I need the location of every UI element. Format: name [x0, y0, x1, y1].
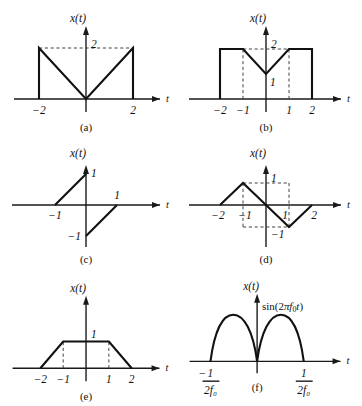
x-tick-neg-denominator: 2f₀: [204, 384, 217, 397]
y-axis-label: x(t): [69, 282, 86, 295]
panel-caption-b: (b): [260, 121, 273, 134]
x-tick-pos-denominator: 2f₀: [297, 384, 310, 397]
x-tick-label-neg2: −2: [34, 373, 48, 385]
x-axis-label: t: [165, 362, 169, 373]
y-axis-arrow-icon: [263, 165, 269, 174]
x-tick-neg-sign: −: [199, 367, 207, 379]
expression-close: ): [299, 300, 303, 313]
panel-b-plot: x(t) t −2 −1 1 2 2 1 (b): [181, 0, 362, 135]
y-axis-label: x(t): [249, 12, 266, 25]
panel-e-plot: x(t) t −2 −1 1 2 1 (e): [0, 270, 181, 405]
panel-a-plot: x(t) t −2 2 2 (a): [0, 0, 181, 135]
x-tick-label-neg2: −2: [213, 104, 227, 116]
x-tick-label-neg2: −2: [32, 104, 46, 116]
x-axis-arrow-icon: [333, 202, 341, 208]
y-tick-label-1: 1: [91, 328, 97, 340]
waveform-f-left-hump: [210, 315, 257, 362]
x-tick-neg-numerator: 1: [208, 367, 214, 379]
panel-d: x(t) t −2 −1 1 2 1 −1 (d): [181, 135, 362, 270]
x-axis-label: t: [346, 355, 350, 366]
y-axis-label: x(t): [69, 147, 86, 160]
x-tick-label-1: 1: [286, 104, 292, 116]
panel-c: x(t) t −1 1 1 −1 (c): [0, 135, 181, 270]
x-tick-label-2: 2: [309, 104, 315, 116]
y-axis-label: x(t): [249, 147, 266, 160]
x-axis-arrow-icon: [333, 96, 341, 102]
panel-d-plot: x(t) t −2 −1 1 2 1 −1 (d): [181, 135, 362, 270]
waveform-c-left: [55, 174, 86, 205]
x-tick-label-1: 1: [282, 209, 288, 221]
waveform-f-right-hump: [257, 315, 304, 362]
waveform-c-right: [86, 205, 117, 236]
panel-f-plot: x(t) t sin(2πf0t) − 1 2f₀ 1 2f₀ (f): [181, 270, 362, 405]
panel-a: x(t) t −2 2 2 (a): [0, 0, 181, 135]
y-axis-label: x(t): [69, 12, 86, 25]
y-tick-label-2: 2: [91, 38, 97, 50]
x-tick-label-neg1: −1: [238, 209, 252, 221]
x-tick-label-neg1: −1: [56, 373, 69, 385]
panel-e: x(t) t −2 −1 1 2 1 (e): [0, 270, 181, 406]
x-tick-label-2: 2: [311, 209, 317, 221]
panel-caption-a: (a): [80, 121, 93, 134]
x-tick-pos-numerator: 1: [301, 367, 307, 379]
y-tick-label-2: 2: [271, 38, 277, 50]
x-axis-arrow-icon: [333, 358, 341, 364]
y-axis-arrow-icon: [83, 26, 89, 35]
signal-waveform-figure: x(t) t −2 2 2 (a) x(t) t −2 −1 1 2: [0, 0, 362, 406]
panel-f: x(t) t sin(2πf0t) − 1 2f₀ 1 2f₀ (f): [181, 270, 362, 406]
x-tick-label-neg1: −1: [48, 209, 62, 221]
x-axis-label: t: [166, 199, 170, 210]
x-tick-label-1: 1: [106, 373, 112, 385]
y-axis-label: x(t): [242, 280, 259, 293]
y-axis-arrow-icon: [254, 294, 260, 303]
x-axis-arrow-icon: [152, 365, 160, 371]
y-tick-label-neg1: −1: [271, 228, 285, 240]
panel-b: x(t) t −2 −1 1 2 2 1 (b): [181, 0, 362, 135]
x-tick-label-pos-half-over-f0: 1 2f₀: [296, 367, 313, 397]
y-tick-label-1: 1: [270, 76, 276, 88]
y-tick-label-1: 1: [271, 172, 277, 184]
x-tick-label-2: 2: [129, 373, 135, 385]
x-axis-arrow-icon: [152, 202, 160, 208]
x-tick-label-neg2: −2: [211, 209, 225, 221]
y-axis-arrow-icon: [83, 165, 89, 174]
x-tick-label-1: 1: [114, 189, 120, 201]
x-axis-label: t: [347, 199, 351, 210]
expression-open: (2: [275, 300, 284, 313]
x-axis-arrow-icon: [152, 96, 160, 102]
x-axis-label: t: [166, 93, 170, 104]
x-tick-label-2: 2: [130, 104, 136, 116]
y-tick-label-neg1: −1: [67, 230, 81, 242]
panel-caption-c: (c): [80, 253, 93, 266]
x-axis-label: t: [347, 93, 351, 104]
panel-caption-e: (e): [80, 390, 92, 403]
panel-c-plot: x(t) t −1 1 1 −1 (c): [0, 135, 181, 270]
y-axis-arrow-icon: [83, 296, 89, 305]
panel-caption-d: (d): [260, 253, 273, 266]
y-axis-arrow-icon: [263, 26, 269, 35]
expression-label: sin(2πf0t): [262, 300, 303, 314]
x-tick-label-neg-half-over-f0: − 1 2f₀: [199, 367, 220, 397]
x-tick-label-neg1: −1: [236, 104, 250, 116]
y-tick-label-1: 1: [91, 167, 97, 179]
panel-caption-f: (f): [252, 381, 263, 394]
expression-sin: sin: [262, 300, 275, 312]
